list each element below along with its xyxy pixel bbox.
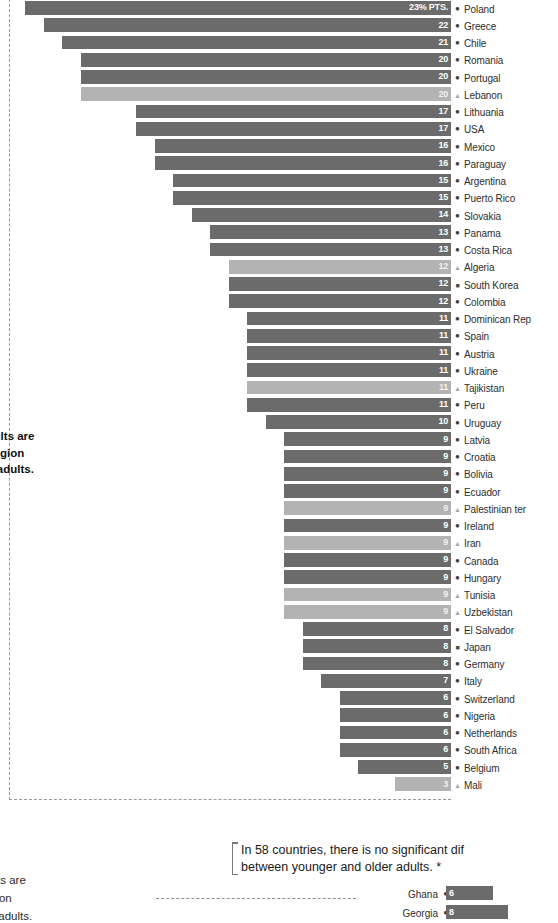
bar[interactable]: 13 xyxy=(210,243,451,257)
bar[interactable]: 9 xyxy=(284,450,451,464)
bar-row: 11●Peru xyxy=(0,397,558,414)
triangle-marker-icon: ▲ xyxy=(453,540,462,547)
country-label: Colombia xyxy=(464,296,505,307)
bar-value-label: 3 xyxy=(443,780,448,789)
bar[interactable]: 12 xyxy=(229,277,451,291)
country-label: Netherlands xyxy=(464,728,517,739)
bar-track: 6 xyxy=(446,886,493,900)
bar[interactable]: 7 xyxy=(321,674,451,688)
bar[interactable]: 9 xyxy=(284,553,451,567)
circle-marker-icon: ● xyxy=(453,56,462,64)
circle-marker-icon: ● xyxy=(453,660,462,668)
bar[interactable]: 3 xyxy=(395,777,451,791)
bar[interactable]: 6 xyxy=(446,886,493,900)
bar-value-label: 16 xyxy=(438,141,448,150)
bar[interactable]: 11 xyxy=(247,363,451,377)
circle-marker-icon: ● xyxy=(453,108,462,116)
bar[interactable]: 11 xyxy=(247,398,451,412)
bar[interactable]: 15 xyxy=(173,174,451,188)
circle-marker-icon: ● xyxy=(453,401,462,409)
bar[interactable]: 20 xyxy=(81,53,451,67)
bar[interactable]: 11 xyxy=(247,381,451,395)
bar[interactable]: 8 xyxy=(303,622,451,636)
country-label: Portugal xyxy=(464,72,500,83)
bar[interactable]: 9 xyxy=(284,484,451,498)
bar[interactable]: 22 xyxy=(44,18,451,32)
triangle-marker-icon: ▲ xyxy=(453,91,462,98)
bar[interactable]: 16 xyxy=(155,156,451,170)
bar-row: 16●Paraguay xyxy=(0,155,558,172)
bar-value-label: 8 xyxy=(449,908,454,917)
circle-marker-icon: ● xyxy=(453,160,462,168)
country-label: Uzbekistan xyxy=(464,607,512,618)
bar[interactable]: 9 xyxy=(284,432,451,446)
bar-row: Ghana●6 xyxy=(0,884,558,903)
country-label: Ghana xyxy=(408,888,438,899)
country-label: Lithuania xyxy=(464,107,504,118)
bar[interactable]: 5 xyxy=(358,760,451,774)
country-label: Dominican Rep xyxy=(464,314,531,325)
bar[interactable]: 17 xyxy=(136,122,451,136)
bar[interactable]: 9 xyxy=(284,501,451,515)
bar-value-label: 11 xyxy=(439,348,448,357)
circle-marker-icon: ● xyxy=(453,298,462,306)
bar-row: 6●South Africa xyxy=(0,742,558,759)
bar[interactable]: 14 xyxy=(192,208,451,222)
bar-value-label: 11 xyxy=(439,400,448,409)
circle-marker-icon: ● xyxy=(453,125,462,133)
bar[interactable]: 23% PTS. xyxy=(25,1,451,15)
bar[interactable]: 6 xyxy=(340,743,451,757)
bar[interactable]: 8 xyxy=(446,905,508,919)
bar[interactable]: 11 xyxy=(247,312,451,326)
bar[interactable]: 9 xyxy=(284,519,451,533)
bar-value-label: 17 xyxy=(438,124,448,133)
bar[interactable]: 12 xyxy=(229,260,451,274)
bar[interactable]: 15 xyxy=(173,191,451,205)
bar[interactable]: 6 xyxy=(340,691,451,705)
bar[interactable]: 6 xyxy=(340,726,451,740)
bar-value-label: 8 xyxy=(443,642,448,651)
bar[interactable]: 20 xyxy=(81,87,451,101)
bar[interactable]: 11 xyxy=(247,346,451,360)
bar[interactable]: 20 xyxy=(81,70,451,84)
triangle-marker-icon: ▲ xyxy=(453,609,462,616)
bar-track: 6 xyxy=(340,726,451,740)
bar[interactable]: 10 xyxy=(266,415,451,429)
bar[interactable]: 16 xyxy=(155,139,451,153)
country-label: Belgium xyxy=(464,762,499,773)
bar[interactable]: 8 xyxy=(303,639,451,653)
country-label: Nigeria xyxy=(464,710,495,721)
bar[interactable]: 9 xyxy=(284,588,451,602)
bar[interactable]: 21 xyxy=(62,36,451,50)
country-label: Mali xyxy=(464,779,482,790)
bar-row: 6●Nigeria xyxy=(0,707,558,724)
bar-value-label: 12 xyxy=(438,297,448,306)
country-label: Croatia xyxy=(464,452,496,463)
bar[interactable]: 13 xyxy=(210,225,451,239)
circle-marker-icon: ● xyxy=(453,177,462,185)
bar[interactable]: 11 xyxy=(247,329,451,343)
country-label: Italy xyxy=(464,676,482,687)
bar-track: 9 xyxy=(284,467,451,481)
bar[interactable]: 9 xyxy=(284,467,451,481)
bar-rows-upper-section: 23% PTS.●Poland22●Greece21●Chile20●Roman… xyxy=(0,0,558,794)
bar-row: 16●Mexico xyxy=(0,138,558,155)
bar-value-label: 15 xyxy=(438,176,448,185)
bar[interactable]: 12 xyxy=(229,294,451,308)
bar[interactable]: 6 xyxy=(340,708,451,722)
circle-marker-icon: ● xyxy=(453,522,462,530)
bar-value-label: 20 xyxy=(438,90,448,99)
bar-track: 11 xyxy=(247,329,451,343)
bar-value-label: 10 xyxy=(438,417,448,426)
circle-marker-icon: ● xyxy=(453,246,462,254)
circle-marker-icon: ● xyxy=(453,453,462,461)
bar[interactable]: 9 xyxy=(284,570,451,584)
bar[interactable]: 8 xyxy=(303,657,451,671)
bar-value-label: 23% PTS. xyxy=(409,3,448,12)
bar[interactable]: 9 xyxy=(284,536,451,550)
bar[interactable]: 9 xyxy=(284,605,451,619)
country-label: Hungary xyxy=(464,572,501,583)
bar[interactable]: 17 xyxy=(136,105,451,119)
bar-track: 12 xyxy=(229,277,451,291)
country-label: Paraguay xyxy=(464,158,506,169)
